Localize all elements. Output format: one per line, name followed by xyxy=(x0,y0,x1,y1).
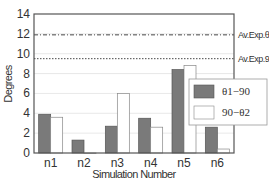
y-tick-label: 10 xyxy=(17,47,31,61)
y-tick-label: 14 xyxy=(17,7,31,21)
legend-label-series-2: 90−θ2 xyxy=(222,106,250,118)
y-tick-label: 0 xyxy=(23,146,30,160)
x-axis-label: Simulation Number xyxy=(92,168,176,180)
bar xyxy=(139,118,151,153)
bar xyxy=(172,70,184,153)
x-tick-label: n6 xyxy=(211,156,225,170)
reference-line-label: Av.Exp.90-θ2 xyxy=(238,54,269,64)
bar xyxy=(105,126,117,153)
y-axis-label: Degrees xyxy=(2,64,14,102)
y-tick-label: 8 xyxy=(23,67,30,81)
x-tick-label: n1 xyxy=(44,156,58,170)
y-tick-label: 6 xyxy=(23,86,30,100)
y-axis-ticks: 02468101214 xyxy=(17,7,31,160)
y-tick-label: 2 xyxy=(23,126,30,140)
bar xyxy=(117,93,129,153)
legend-swatch-series-2 xyxy=(194,106,214,119)
x-tick-label: n2 xyxy=(77,156,91,170)
x-tick-label: n5 xyxy=(177,156,191,170)
bar xyxy=(39,114,51,153)
legend-label-series-1: θ1−90 xyxy=(222,85,250,97)
y-tick-label: 12 xyxy=(17,27,31,41)
bar-chart: 02468101214 Av.Exp.θ1-90Av.Exp.90-θ2 n1n… xyxy=(0,0,269,188)
legend: θ1−90 90−θ2 xyxy=(189,79,267,125)
bar xyxy=(72,140,84,153)
legend-swatch-series-1 xyxy=(194,85,214,98)
bar xyxy=(151,127,163,153)
reference-line-label: Av.Exp.θ1-90 xyxy=(238,30,269,40)
y-tick-label: 4 xyxy=(23,106,30,120)
bar xyxy=(51,117,63,153)
bar xyxy=(205,127,217,153)
